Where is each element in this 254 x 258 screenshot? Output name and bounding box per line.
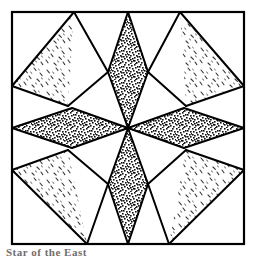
quilt-block-svg <box>0 0 254 248</box>
figure-page: Star of the East <box>0 0 254 258</box>
figure-caption-strip: Star of the East <box>0 246 254 258</box>
quilt-block-figure <box>0 0 254 248</box>
figure-caption: Star of the East <box>6 246 87 258</box>
